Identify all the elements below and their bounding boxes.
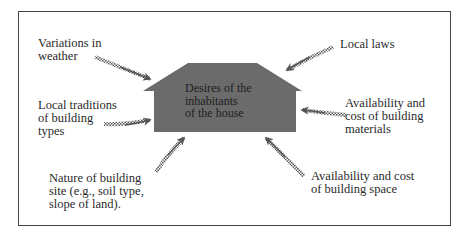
factor-laws: Local laws [340,38,395,51]
arrow-materials [302,110,346,115]
factor-traditions: Local traditions of building types [38,99,117,138]
factor-site: Nature of building site (e.g., soil type… [49,172,144,211]
arrow-space [266,138,304,176]
factor-materials: Availability and cost of building materi… [345,97,425,136]
arrow-weather [95,57,150,79]
factor-weather: Variations in weather [38,37,102,63]
factor-space: Availability and cost of building space [311,170,414,196]
arrow-site [156,138,184,172]
center-label: Desires of the inhabitants of the house [185,82,285,120]
arrow-laws [287,47,333,70]
